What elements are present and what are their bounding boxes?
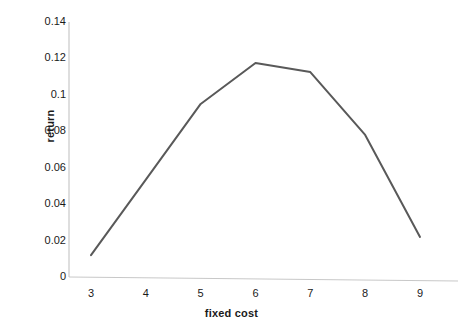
x-axis-title: fixed cost xyxy=(0,307,463,319)
x-axis-tick-label: 4 xyxy=(131,288,161,299)
x-axis-tick-label: 3 xyxy=(76,288,106,299)
x-axis-tick-label: 5 xyxy=(186,288,216,299)
x-axis-tick-label: 6 xyxy=(241,288,271,299)
x-axis-tick-labels: 3456789 xyxy=(0,0,463,334)
line-chart: return 00.020.040.060.080.10.120.14 3456… xyxy=(0,0,463,334)
x-axis-tick-label: 9 xyxy=(405,288,435,299)
x-axis-tick-label: 8 xyxy=(350,288,380,299)
x-axis-tick-label: 7 xyxy=(295,288,325,299)
